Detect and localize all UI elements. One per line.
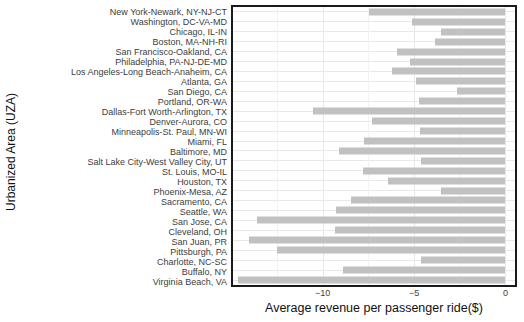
bar-row: [233, 116, 515, 126]
bar-row: [233, 205, 515, 215]
bar-row: [233, 275, 515, 285]
bar-row: [233, 156, 515, 166]
category-label: Phoenix-Mesa, AZ: [0, 187, 227, 197]
bar-row: [233, 37, 515, 47]
category-label: Miami, FL: [0, 137, 227, 147]
x-axis-tick-labels: −10−50: [233, 288, 515, 300]
bar-row: [233, 47, 515, 57]
bar-denver-aurora-co: [372, 118, 506, 125]
bar-row: [233, 235, 515, 245]
category-label: San Jose, CA: [0, 217, 227, 227]
category-label: Baltimore, MD: [0, 147, 227, 157]
bar-minneapolis-st-paul-mn-wi: [420, 128, 505, 135]
category-label: Los Angeles-Long Beach-Anaheim, CA: [0, 67, 227, 77]
bar-row: [233, 86, 515, 96]
bar-row: [233, 166, 515, 176]
bar-buffalo-ny: [343, 266, 506, 273]
bar-row: [233, 196, 515, 206]
category-label: Minneapolis-St. Paul, MN-WI: [0, 127, 227, 137]
category-label: San Juan, PR: [0, 237, 227, 247]
bar-row: [233, 126, 515, 136]
bar-row: [233, 215, 515, 225]
bar-row: [233, 146, 515, 156]
bar-rows: [233, 7, 515, 285]
category-label: Pittsburgh, PA: [0, 247, 227, 257]
bar-miami-fl: [364, 137, 506, 144]
category-label: Houston, TX: [0, 177, 227, 187]
plot-area: [231, 5, 517, 287]
bar-row: [233, 7, 515, 17]
bar-cleveland-oh: [335, 227, 505, 234]
bar-row: [233, 106, 515, 116]
bar-row: [233, 67, 515, 77]
bar-row: [233, 265, 515, 275]
category-label: Charlotte, NC-SC: [0, 257, 227, 267]
bar-row: [233, 136, 515, 146]
category-label: San Francisco-Oakland, CA: [0, 47, 227, 57]
bar-row: [233, 17, 515, 27]
bar-row: [233, 76, 515, 86]
category-label: Washington, DC-VA-MD: [0, 17, 227, 27]
bar-washington-dc-va-md: [412, 18, 505, 25]
category-label: Boston, MA-NH-RI: [0, 37, 227, 47]
bar-pittsburgh-pa: [277, 247, 506, 254]
category-label: Portland, OR-WA: [0, 97, 227, 107]
bar-boston-ma-nh-ri: [435, 38, 505, 45]
bar-baltimore-md: [339, 147, 505, 154]
bar-seattle-wa: [336, 207, 505, 214]
bar-phoenix-mesa-az: [441, 187, 506, 194]
bar-row: [233, 245, 515, 255]
category-label: New York-Newark, NY-NJ-CT: [0, 7, 227, 17]
bar-san-francisco-oakland-ca: [397, 48, 506, 55]
bar-charlotte-nc-sc: [421, 257, 505, 264]
category-label: Virginia Beach, VA: [0, 277, 227, 287]
category-label: Buffalo, NY: [0, 267, 227, 277]
bar-salt-lake-city-west-valley-city-ut: [421, 157, 505, 164]
bar-san-diego-ca: [457, 88, 505, 95]
x-tick-label: −10: [315, 288, 330, 298]
category-label: Seattle, WA: [0, 207, 227, 217]
category-label: Dallas-Fort Worth-Arlington, TX: [0, 107, 227, 117]
plot-inner: [233, 7, 515, 285]
y-axis-labels: New York-Newark, NY-NJ-CTWashington, DC-…: [0, 7, 227, 285]
bar-row: [233, 96, 515, 106]
bar-row: [233, 57, 515, 67]
category-label: St. Louis, MO-IL: [0, 167, 227, 177]
bar-new-york-newark-ny-nj-ct: [369, 8, 505, 15]
bar-los-angeles-long-beach-anaheim-ca: [392, 68, 505, 75]
bar-philadelphia-pa-nj-de-md: [410, 58, 505, 65]
x-axis-title: Average revenue per passenger ride($): [265, 301, 483, 315]
bar-houston-tx: [388, 177, 505, 184]
bar-row: [233, 225, 515, 235]
x-tick-label: −5: [409, 288, 419, 298]
category-label: Salt Lake City-West Valley City, UT: [0, 157, 227, 167]
bar-sacramento-ca: [351, 197, 506, 204]
bar-chicago-il-in: [441, 28, 506, 35]
bar-san-jose-ca: [257, 217, 506, 224]
category-label: Philadelphia, PA-NJ-DE-MD: [0, 57, 227, 67]
category-label: Denver-Aurora, CO: [0, 117, 227, 127]
bar-row: [233, 176, 515, 186]
bar-portland-or-wa: [419, 98, 506, 105]
bar-st-louis-mo-il: [363, 167, 506, 174]
bar-row: [233, 27, 515, 37]
category-label: San Diego, CA: [0, 87, 227, 97]
bar-chart-figure: Urbanized Area (UZA) New York-Newark, NY…: [0, 0, 524, 322]
bar-row: [233, 186, 515, 196]
bar-atlanta-ga: [416, 78, 506, 85]
x-tick-label: 0: [503, 288, 508, 298]
bar-virginia-beach-va: [238, 276, 505, 283]
category-label: Chicago, IL-IN: [0, 27, 227, 37]
category-label: Cleveland, OH: [0, 227, 227, 237]
category-label: Sacramento, CA: [0, 197, 227, 207]
bar-dallas-fort-worth-arlington-tx: [313, 108, 505, 115]
bar-row: [233, 255, 515, 265]
category-label: Atlanta, GA: [0, 77, 227, 87]
bar-san-juan-pr: [249, 237, 505, 244]
